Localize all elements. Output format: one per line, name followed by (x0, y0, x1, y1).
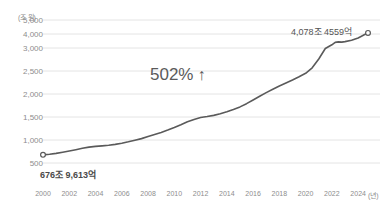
growth-rate-annotation: 502%↑ (150, 65, 205, 85)
x-axis-tick-label: 2014 (219, 190, 235, 197)
x-axis-tick-label: 2016 (245, 190, 261, 197)
start-value-annotation: 676조 9,613억 (40, 168, 96, 181)
end-marker (366, 31, 371, 36)
x-axis-tick-label: 2012 (193, 190, 209, 197)
x-axis-tick-label: 2006 (114, 190, 130, 197)
x-axis-tick-label: 2004 (88, 190, 104, 197)
x-axis-tick-label: 2018 (272, 190, 288, 197)
up-arrow-icon: ↑ (197, 66, 205, 83)
gridlines (43, 20, 380, 163)
x-axis-tick-label: 2002 (61, 190, 77, 197)
start-marker (41, 152, 46, 157)
line-chart: (조 원) 5001,0001,5002,0002,5003,0004,0005… (0, 0, 391, 216)
x-axis-tick-label: 2022 (324, 190, 340, 197)
x-axis-tick-label: 2008 (140, 190, 156, 197)
x-axis-unit-label: (년) (368, 190, 379, 200)
x-axis-tick-label: 2020 (298, 190, 314, 197)
x-axis-tick-label: 2024 (350, 190, 366, 197)
end-value-annotation: 4,078조 4559억 (291, 25, 352, 38)
x-axis-tick-label: 2010 (167, 190, 183, 197)
growth-rate-value: 502% (150, 65, 193, 84)
x-axis-tick-label: 2000 (35, 190, 51, 197)
